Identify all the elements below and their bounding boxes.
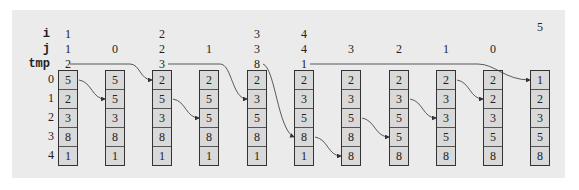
arrows-layer	[0, 0, 579, 190]
